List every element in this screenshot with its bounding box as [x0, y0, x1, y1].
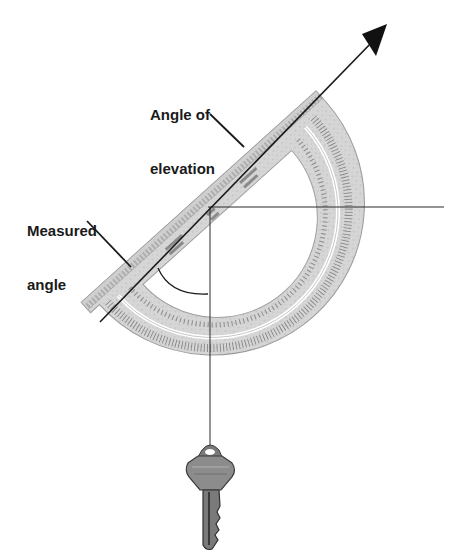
- protractor: [81, 91, 427, 426]
- measured-angle-line1: Measured: [27, 222, 97, 240]
- arrowhead-icon: [362, 24, 387, 56]
- measured-angle-line2: angle: [27, 276, 97, 294]
- angle-of-elevation-line1: Angle of: [150, 106, 215, 124]
- angle-of-elevation-label: Angle of elevation: [150, 70, 215, 196]
- measured-angle-label: Measured angle: [27, 186, 97, 312]
- elevation-leader-line: [210, 114, 244, 147]
- key-icon: [186, 445, 234, 550]
- angle-of-elevation-line2: elevation: [150, 160, 215, 178]
